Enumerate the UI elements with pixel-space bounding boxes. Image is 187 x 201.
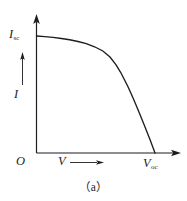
iv-characteristic-curve <box>37 36 156 153</box>
figure-iv-curve: Isc I O V Voc （a） <box>0 0 187 201</box>
x-max-subscript: oc <box>151 163 158 171</box>
iv-curve-plot <box>0 0 187 201</box>
x-max-symbol: V <box>143 156 151 170</box>
origin-label: O <box>16 155 25 168</box>
x-axis-label-v: V <box>58 155 66 168</box>
x-max-label-voc: Voc <box>143 157 158 170</box>
v-direction-arrowhead <box>96 160 104 165</box>
figure-caption: （a） <box>0 178 187 194</box>
y-max-subscript: sc <box>13 34 19 42</box>
y-axis-label-i: I <box>14 88 18 101</box>
y-max-label-isc: Isc <box>9 28 19 41</box>
